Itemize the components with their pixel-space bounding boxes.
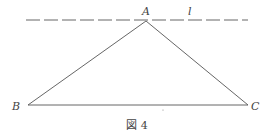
point-a-label: A bbox=[141, 5, 150, 18]
line-l-label: l bbox=[188, 5, 192, 18]
segment-ac bbox=[146, 21, 248, 105]
figure-canvas: A l B C 図 4 bbox=[0, 0, 275, 138]
point-b-label: B bbox=[11, 100, 20, 113]
segment-ab bbox=[28, 21, 146, 105]
geometry-figure: A l B C 図 4 bbox=[0, 0, 275, 138]
point-c-label: C bbox=[251, 100, 260, 113]
figure-caption: 図 4 bbox=[126, 119, 148, 132]
stray-dot bbox=[162, 109, 163, 110]
